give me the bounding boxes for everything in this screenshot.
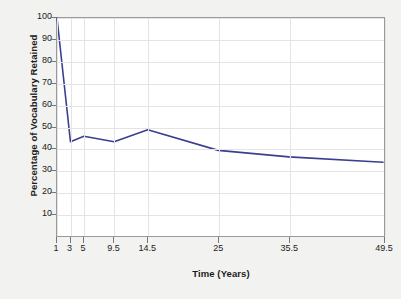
gridline-horizontal [57, 128, 384, 129]
y-tick-mark [50, 61, 56, 62]
gridline-vertical [290, 18, 291, 236]
y-tick-mark [50, 214, 56, 215]
y-tick-label: 90 [12, 33, 52, 43]
x-tick-mark [147, 237, 148, 243]
y-tick-label: 10 [12, 208, 52, 218]
x-tick-mark [113, 237, 114, 243]
x-tick-mark [83, 237, 84, 243]
gridline-horizontal [57, 171, 384, 172]
gridline-horizontal [57, 84, 384, 85]
y-tick-mark [50, 39, 56, 40]
gridline-vertical [84, 18, 85, 236]
gridline-horizontal [57, 106, 384, 107]
vocabulary-retention-line-chart: Percentage of Vocabulary Retained Time (… [0, 0, 401, 299]
y-tick-mark [50, 17, 56, 18]
gridline-vertical [114, 18, 115, 236]
x-tick-mark [384, 237, 385, 243]
gridline-vertical [148, 18, 149, 236]
y-tick-label: 50 [12, 121, 52, 131]
y-tick-label: 30 [12, 164, 52, 174]
x-axis-title: Time (Years) [56, 268, 386, 279]
y-tick-label: 20 [12, 186, 52, 196]
x-tick-label: 14.5 [124, 243, 170, 253]
y-tick-mark [50, 192, 56, 193]
gridline-vertical [71, 18, 72, 236]
gridline-horizontal [57, 215, 384, 216]
y-tick-label: 40 [12, 142, 52, 152]
x-tick-mark [218, 237, 219, 243]
y-tick-mark [50, 148, 56, 149]
y-tick-label: 100 [12, 11, 52, 21]
x-tick-label: 49.5 [361, 243, 401, 253]
gridline-horizontal [57, 40, 384, 41]
x-tick-label: 25 [195, 243, 241, 253]
gridline-vertical [385, 18, 386, 236]
plot-area [56, 17, 385, 237]
x-tick-label: 35.5 [266, 243, 312, 253]
gridline-horizontal [57, 18, 384, 19]
y-tick-label: 80 [12, 55, 52, 65]
gridline-vertical [57, 18, 58, 236]
y-tick-label: 70 [12, 77, 52, 87]
y-tick-mark [50, 127, 56, 128]
gridline-horizontal [57, 149, 384, 150]
y-tick-label: 60 [12, 99, 52, 109]
y-tick-mark [50, 170, 56, 171]
y-tick-mark [50, 105, 56, 106]
y-tick-mark [50, 83, 56, 84]
gridline-vertical [219, 18, 220, 236]
x-tick-mark [289, 237, 290, 243]
gridline-horizontal [57, 62, 384, 63]
gridline-horizontal [57, 193, 384, 194]
